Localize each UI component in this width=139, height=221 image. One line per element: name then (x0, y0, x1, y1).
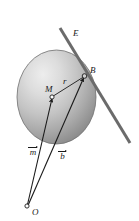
label-vector-m: m (28, 145, 38, 157)
vector-m-overbar (28, 145, 38, 149)
vector-b-overbar (58, 149, 67, 153)
label-radius-r: r (63, 77, 67, 86)
point-b-marker (82, 74, 87, 79)
vector-m-symbol: m (28, 148, 38, 157)
point-m-marker (50, 95, 54, 99)
vector-b-symbol: b (58, 152, 67, 161)
sphere-shape (17, 50, 96, 144)
label-point-m: M (45, 85, 53, 94)
label-vector-b: b (58, 149, 67, 161)
diagram-canvas (0, 0, 139, 221)
label-point-b: B (90, 66, 96, 75)
vector-sphere-diagram: E B M r O m b (0, 0, 139, 221)
label-origin-o: O (32, 208, 39, 217)
point-o-marker (25, 204, 29, 208)
label-line-e: E (73, 29, 79, 38)
